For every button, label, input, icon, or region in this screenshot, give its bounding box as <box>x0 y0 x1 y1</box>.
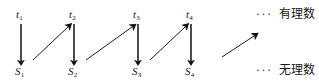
label-subscript: 1 <box>19 14 23 22</box>
bottom-label-s3: S3 <box>132 66 141 79</box>
bottom-label-s1: S1 <box>15 66 24 79</box>
ellipsis-icon-top: ··· <box>256 8 273 20</box>
legend-label-rational: 有理数 <box>279 8 315 20</box>
label-subscript: 1 <box>21 71 25 79</box>
top-label-t3: t3 <box>133 9 140 22</box>
sequence-arrow-diagram: t1t2t3t4 S1S2S3S4 ··· 有理数 ··· 无理数 <box>0 0 319 84</box>
label-base: S <box>132 65 138 77</box>
legend-label-irrational: 无理数 <box>279 64 315 76</box>
legend-rational: ··· 有理数 <box>256 8 315 20</box>
diagonal-arrow-group <box>33 27 254 60</box>
label-subscript: 4 <box>191 71 195 79</box>
bottom-label-s2: S2 <box>68 66 77 79</box>
label-subscript: 3 <box>138 71 142 79</box>
legend-irrational: ··· 无理数 <box>256 64 315 76</box>
label-base: S <box>68 65 74 77</box>
top-label-t1: t1 <box>16 9 23 22</box>
diagonal-arrow-s1-t2 <box>33 27 68 60</box>
label-subscript: 2 <box>72 14 76 22</box>
ellipsis-icon-bottom: ··· <box>256 64 273 76</box>
diagonal-arrow-s4-t5 <box>222 36 254 57</box>
top-label-t4: t4 <box>186 9 193 22</box>
label-subscript: 3 <box>136 14 140 22</box>
diagonal-arrow-s2-t3 <box>86 27 132 60</box>
bottom-label-s4: S4 <box>185 66 194 79</box>
top-label-t2: t2 <box>69 9 76 22</box>
diagonal-arrow-s3-t4 <box>150 27 185 60</box>
label-subscript: 4 <box>189 14 193 22</box>
label-base: S <box>185 65 191 77</box>
down-arrow-group <box>21 24 191 61</box>
label-subscript: 2 <box>74 71 78 79</box>
label-base: S <box>15 65 21 77</box>
